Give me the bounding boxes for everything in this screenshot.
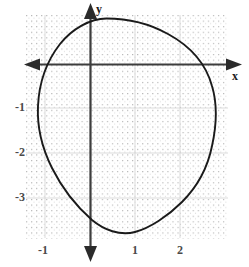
y-axis-label: y	[96, 3, 102, 15]
y-tick-label--3: -3	[15, 191, 25, 203]
x-tick-label-2: 2	[177, 244, 183, 256]
y-tick-label--1: -1	[15, 101, 25, 113]
x-tick-label-1: 1	[132, 244, 138, 256]
y-axis-down-arrow	[84, 246, 97, 262]
x-axis-label: x	[232, 70, 238, 82]
graph-figure: -1 -2 -3 -1 1 2 y x	[0, 0, 249, 267]
y-tick-label--2: -2	[15, 146, 25, 158]
x-tick-label--1: -1	[38, 244, 48, 256]
coordinate-plane-svg	[0, 0, 249, 267]
